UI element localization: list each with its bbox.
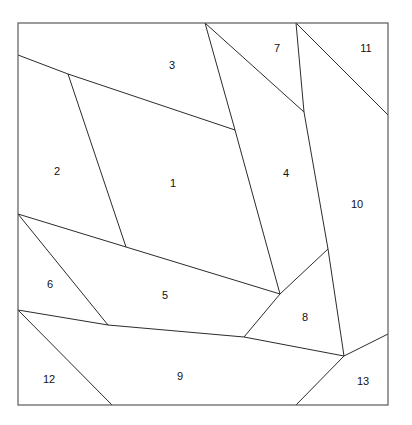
region-label-3: 3: [169, 59, 175, 71]
region-label-10: 10: [351, 198, 363, 210]
region-label-5: 5: [162, 289, 168, 301]
partition-diagram-root: 1 2 3 4 5 6 7 8 9 10 11 12 13: [0, 0, 412, 425]
region-label-8: 8: [302, 311, 308, 323]
region-label-2: 2: [54, 165, 60, 177]
region-label-12: 12: [43, 373, 55, 385]
partition-diagram-svg: 1 2 3 4 5 6 7 8 9 10 11 12 13: [0, 0, 412, 425]
region-label-4: 4: [283, 167, 289, 179]
region-label-6: 6: [47, 278, 53, 290]
region-faces-group: [18, 23, 388, 405]
region-label-13: 13: [357, 375, 369, 387]
region-label-1: 1: [170, 177, 176, 189]
region-label-9: 9: [177, 370, 183, 382]
region-label-11: 11: [360, 42, 371, 54]
region-label-7: 7: [274, 42, 280, 54]
